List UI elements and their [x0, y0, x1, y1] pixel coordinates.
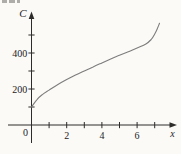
figure-panel: 2462004000xC: [0, 0, 181, 154]
x-tick-label: 6: [135, 130, 140, 141]
origin-label: 0: [23, 127, 28, 138]
cost-curve: [32, 23, 160, 107]
x-axis-label: x: [169, 128, 175, 139]
cost-curve-chart: 2462004000xC: [0, 0, 181, 154]
y-axis-arrowhead: [29, 12, 35, 20]
y-axis-label: C: [19, 7, 27, 19]
x-tick-label: 2: [64, 130, 69, 141]
x-tick-label: 4: [99, 130, 104, 141]
y-tick-label: 200: [12, 84, 27, 95]
y-tick-label: 400: [12, 48, 27, 59]
